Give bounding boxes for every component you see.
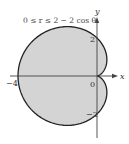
x-axis-label: x — [120, 72, 125, 81]
chart-title: 0 ≤ r ≤ 2 − 2 cos θ — [23, 16, 96, 25]
y-axis-label: y — [94, 7, 100, 16]
y-tick-minus-2: −2 — [86, 110, 98, 119]
y-tick-2: 2 — [90, 35, 95, 44]
x-tick-minus-4: −4 — [6, 79, 18, 88]
cardioid-plot: 0 ≤ r ≤ 2 − 2 cos θ y x −4 0 2 −2 — [0, 0, 129, 144]
origin-label: 0 — [90, 80, 95, 89]
x-axis-arrow-icon — [112, 74, 118, 78]
